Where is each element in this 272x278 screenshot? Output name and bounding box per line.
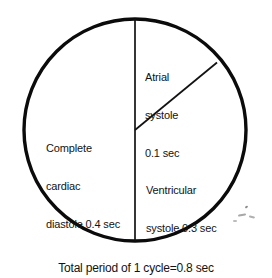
cardiac-cycle-pie-figure: Atrial systole 0.1 sec Complete cardiac … <box>0 0 272 278</box>
ventricular-label-line-2: systole 0.3 sec <box>146 222 217 235</box>
slice-label-ventricular-systole: Ventricular systole 0.3 sec <box>146 159 217 260</box>
scan-speck <box>233 220 237 222</box>
slice-label-complete-cardiac-diastole: Complete cardiac diastole 0.4 sec <box>46 117 120 256</box>
diastole-label-line-1: Complete <box>46 142 120 155</box>
pie-chart-graphic <box>0 0 272 278</box>
atrial-label-line-1: Atrial <box>145 71 179 84</box>
atrial-label-line-2: systole <box>145 109 179 122</box>
atrial-label-line-3: 0.1 sec <box>145 147 179 160</box>
diastole-label-line-3: diastole 0.4 sec <box>46 218 120 231</box>
ventricular-label-line-1: Ventricular <box>146 184 217 197</box>
figure-caption: Total period of 1 cycle=0.8 sec <box>0 261 272 275</box>
diastole-label-line-2: cardiac <box>46 180 120 193</box>
